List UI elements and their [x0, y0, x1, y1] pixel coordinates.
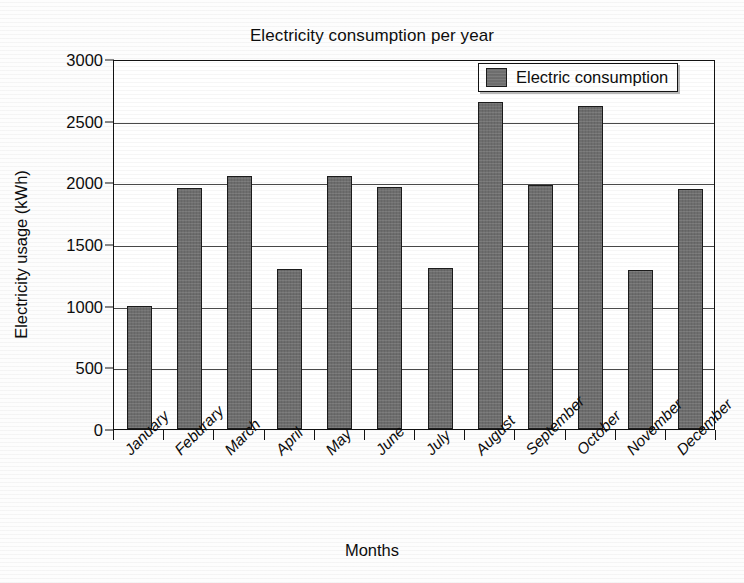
x-tick-mark [163, 430, 164, 440]
x-tick-label-may: May [322, 425, 355, 458]
x-tick-mark [464, 430, 465, 440]
x-tick-mark [364, 430, 365, 440]
bar-august [478, 102, 503, 429]
legend-label: Electric consumption [516, 68, 668, 87]
x-tick-mark [665, 430, 666, 440]
y-tick-label: 2000 [41, 174, 103, 193]
x-tick-mark [314, 430, 315, 440]
y-tick-label: 1500 [41, 236, 103, 255]
bar-november [628, 270, 653, 429]
bar-january [127, 306, 152, 429]
y-tick-label: 2500 [41, 112, 103, 131]
y-tick-label: 0 [41, 421, 103, 440]
x-tick-mark [565, 430, 566, 440]
bar-feburary [177, 188, 202, 429]
y-axis-title: Electricity usage (kWh) [12, 100, 31, 410]
x-tick-mark [514, 430, 515, 440]
y-tick-label: 500 [41, 359, 103, 378]
x-axis-title: Months [0, 541, 744, 560]
bar-september [528, 185, 553, 429]
bar-march [227, 176, 252, 429]
x-tick-mark [264, 430, 265, 440]
x-tick-label-july: July [422, 426, 454, 458]
legend[interactable]: Electric consumption [478, 63, 678, 92]
chart-title: Electricity consumption per year [0, 26, 744, 46]
bar-april [277, 269, 302, 429]
x-tick-mark [615, 430, 616, 440]
bar-june [377, 187, 402, 429]
x-tick-mark [414, 430, 415, 440]
plot-area [113, 60, 715, 430]
bar-december [678, 189, 703, 430]
x-tick-mark [113, 430, 114, 440]
bar-may [327, 176, 352, 429]
x-tick-mark [213, 430, 214, 440]
y-tick-label: 3000 [41, 51, 103, 70]
chart-figure: Electricity consumption per year 0500100… [0, 0, 744, 583]
x-tick-mark [715, 430, 716, 440]
legend-swatch-icon [486, 68, 507, 87]
bar-july [428, 268, 453, 429]
bars-layer [114, 61, 714, 429]
bar-october [578, 106, 603, 429]
y-tick-label: 1000 [41, 297, 103, 316]
